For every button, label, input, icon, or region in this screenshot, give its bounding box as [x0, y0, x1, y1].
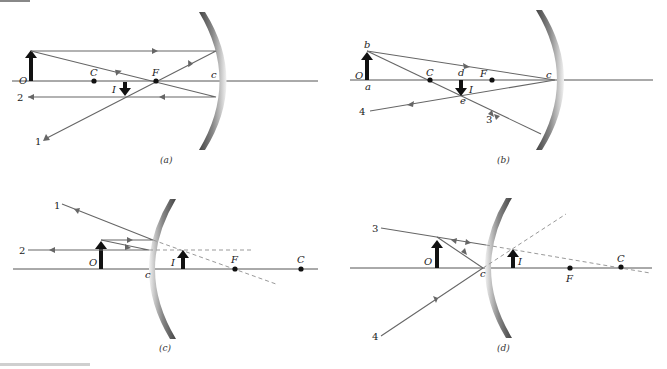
label-ray-1: 1 — [35, 136, 41, 147]
center-point — [298, 266, 303, 271]
ray-arrow — [494, 114, 500, 120]
label-ray-3: 3 — [372, 223, 378, 234]
label-focus: F — [151, 67, 160, 78]
label-b: b — [364, 39, 370, 50]
object-arrow — [29, 56, 33, 81]
caption-a: (a) — [160, 155, 173, 165]
label-vertex: c — [546, 69, 552, 80]
label-a: a — [365, 81, 371, 92]
ray-arrow — [127, 237, 133, 243]
label-focus: F — [230, 254, 239, 265]
bottom-text-strip — [0, 363, 90, 366]
ray-arrow — [49, 247, 55, 253]
label-vertex: c — [480, 268, 486, 279]
label-vertex: c — [145, 269, 151, 280]
label-object: O — [355, 70, 363, 81]
ray-2 — [28, 240, 149, 250]
center-point — [618, 264, 623, 269]
object-arrow-head — [431, 240, 443, 248]
ray-arrow — [159, 94, 165, 100]
label-ray-2: 2 — [19, 245, 25, 256]
label-object: O — [19, 75, 27, 86]
label-center: C — [297, 254, 305, 265]
label-ray-4: 4 — [372, 331, 378, 342]
ray-3 — [367, 51, 541, 134]
label-ray-4: 4 — [359, 106, 365, 117]
focal-point — [153, 78, 158, 83]
label-center: C — [426, 67, 434, 78]
label-ray-1: 1 — [54, 200, 60, 211]
image-arrow-head — [177, 250, 189, 258]
object-arrow-head — [95, 241, 107, 249]
header-strip — [0, 0, 30, 2]
caption-d: (d) — [497, 343, 510, 353]
label-e: e — [460, 95, 466, 106]
label-center: C — [617, 253, 625, 264]
object-arrow — [365, 58, 369, 80]
label-ray-3: 3 — [486, 114, 492, 125]
label-image: I — [111, 84, 117, 95]
center-point — [91, 78, 96, 83]
label-vertex: c — [211, 69, 217, 80]
diagram-c: 1 2 O c I F C (c) — [13, 199, 318, 353]
diagram-d: 3 4 O c I F C (d) — [350, 198, 652, 353]
mirror-ray-diagrams: O C F c I 2 1 (a) b O a C d F c I e 4 — [0, 0, 667, 369]
caption-c: (c) — [159, 343, 172, 353]
label-ray-2: 2 — [17, 92, 23, 103]
label-focus: F — [565, 273, 574, 284]
ray-arrow — [152, 48, 158, 54]
ray-arrow — [125, 244, 131, 250]
label-image: I — [517, 256, 523, 267]
label-image: I — [170, 257, 176, 268]
focal-point — [232, 266, 237, 271]
ray-4 — [381, 237, 483, 336]
label-focus: F — [479, 68, 488, 79]
center-point — [427, 77, 432, 82]
ray-arrow — [407, 101, 414, 107]
label-d: d — [458, 67, 464, 78]
image-arrow-head — [119, 88, 131, 96]
label-object: O — [89, 257, 97, 268]
focal-point — [567, 265, 572, 270]
ray-arrow — [433, 296, 438, 303]
diagram-a: O C F c I 2 1 (a) — [12, 12, 318, 165]
caption-b: (b) — [497, 155, 510, 165]
diagram-b: b O a C d F c I e 4 3 (b) — [350, 10, 653, 165]
object-arrow — [435, 246, 439, 268]
label-center: C — [90, 67, 98, 78]
label-object: O — [424, 256, 432, 267]
ray-arrow — [451, 238, 457, 244]
ray-arrow — [28, 94, 34, 100]
focal-point — [489, 77, 494, 82]
